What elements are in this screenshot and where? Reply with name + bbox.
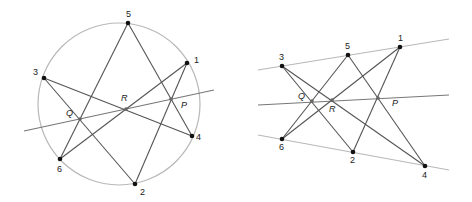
segment-5-4 — [348, 55, 425, 166]
conic-line-1 — [258, 39, 449, 70]
segment-3-2 — [282, 66, 353, 152]
vertex-point-2 — [351, 150, 356, 155]
pascal-theorem-diagram: QRP123456 QRP123456 — [0, 0, 472, 202]
segment-5-4 — [128, 23, 192, 136]
circle-case-figure: QRP123456 — [24, 9, 214, 197]
vertex-point-6 — [58, 157, 63, 162]
intersection-point-r — [330, 98, 334, 102]
intersection-point-p — [169, 97, 173, 101]
intersection-label-q: Q — [298, 91, 305, 101]
vertex-point-4 — [190, 134, 195, 139]
vertex-label-2: 2 — [140, 187, 145, 197]
intersection-point-p — [376, 96, 380, 100]
intersection-point-r — [124, 107, 128, 111]
vertex-point-6 — [280, 137, 285, 142]
vertex-label-3: 3 — [33, 67, 38, 77]
vertex-label-2: 2 — [350, 155, 355, 165]
conic-circle — [38, 23, 200, 185]
segment-5-6 — [282, 55, 348, 139]
vertex-label-1: 1 — [398, 33, 403, 43]
vertex-label-5: 5 — [126, 9, 131, 19]
vertex-label-4: 4 — [422, 170, 427, 180]
line-pair-case-figure: QRP123456 — [258, 33, 449, 180]
segment-5-6 — [60, 23, 128, 159]
pascal-line — [258, 95, 449, 105]
vertex-label-5: 5 — [345, 41, 350, 51]
vertex-point-1 — [185, 61, 190, 66]
vertex-point-2 — [133, 182, 138, 187]
vertex-label-4: 4 — [196, 132, 201, 142]
vertex-label-3: 3 — [279, 52, 284, 62]
intersection-label-r: R — [329, 104, 336, 114]
intersection-label-p: P — [181, 100, 187, 110]
intersection-label-r: R — [121, 93, 128, 103]
vertex-label-1: 1 — [194, 55, 199, 65]
intersection-point-q — [310, 99, 314, 103]
intersection-point-q — [78, 117, 82, 121]
vertex-point-3 — [42, 76, 47, 81]
intersection-label-q: Q — [66, 108, 73, 118]
vertex-point-5 — [346, 53, 351, 58]
segment-1-6 — [60, 63, 187, 159]
vertex-label-6: 6 — [279, 142, 284, 152]
segment-3-4 — [44, 78, 192, 136]
intersection-label-p: P — [392, 98, 398, 108]
vertex-point-4 — [423, 164, 428, 169]
vertex-point-5 — [126, 21, 131, 26]
vertex-point-1 — [398, 45, 403, 50]
vertex-point-3 — [280, 64, 285, 69]
vertex-label-6: 6 — [57, 164, 62, 174]
